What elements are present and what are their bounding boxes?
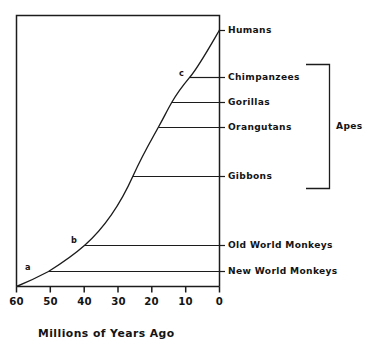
x-tick-label-10: 10 [173,297,198,307]
x-tick-label-50: 50 [38,297,63,307]
x-tick-label-30: 30 [106,297,131,307]
taxon-label-gibbons: Gibbons [228,172,272,181]
x-axis-ticks [17,287,220,293]
label-connector-ticks [220,31,226,272]
taxon-label-chimpanzees: Chimpanzees [228,73,300,82]
primate-evolution-diagram: Humans Chimpanzees Gorillas Orangutans G… [0,0,378,353]
x-axis-title: Millions of Years Ago [38,329,175,340]
group-label-apes: Apes [336,122,363,131]
node-label-c: c [179,69,184,77]
human-lineage-curve [17,30,220,287]
x-tick-label-20: 20 [139,297,164,307]
node-label-a: a [25,263,31,271]
node-label-b: b [71,236,77,244]
taxon-label-new-world-monkeys: New World Monkeys [228,267,338,276]
taxon-label-orangutans: Orangutans [228,123,292,132]
taxon-label-gorillas: Gorillas [228,98,270,107]
x-tick-label-0: 0 [210,297,229,307]
taxon-label-humans: Humans [228,26,272,35]
apes-bracket [306,65,330,189]
taxon-label-old-world-monkeys: Old World Monkeys [228,241,333,250]
x-tick-label-60: 60 [4,297,29,307]
x-tick-label-40: 40 [72,297,97,307]
